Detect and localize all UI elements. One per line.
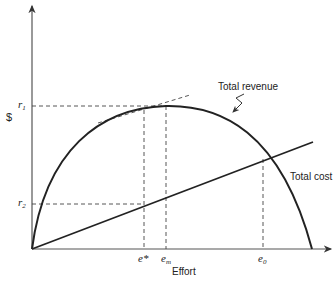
total-cost-label: Total cost <box>290 172 332 182</box>
total-cost-line <box>32 142 313 249</box>
e-m-tick-label: em <box>161 253 171 266</box>
total-revenue-curve <box>32 106 312 249</box>
x-axis-label: Effort <box>172 267 196 277</box>
revenue-pointer-icon <box>233 94 244 112</box>
e-star-tick-label: e* <box>138 253 148 264</box>
y-axis-label: $ <box>6 112 12 123</box>
r2-tick-label: r2 <box>18 197 26 210</box>
effort-revenue-cost-diagram: $ r1 r2 e* em e0 Effort Total revenue To… <box>0 0 335 281</box>
e0-tick-label: e0 <box>258 253 266 266</box>
diagram-canvas <box>0 0 335 281</box>
total-revenue-label: Total revenue <box>218 82 278 92</box>
r1-tick-label: r1 <box>18 99 26 112</box>
